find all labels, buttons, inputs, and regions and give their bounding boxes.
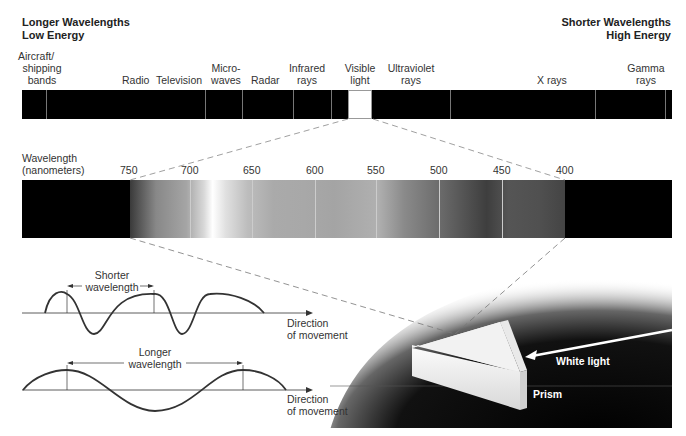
wave-label-text: Shorter [82, 269, 142, 281]
wave-label-text: Longer [124, 346, 186, 358]
short-wavelength-label: Shorter wavelength [82, 269, 142, 293]
short-wave [22, 284, 313, 334]
direction-text: of movement [287, 405, 348, 417]
prism-label: Prism [533, 388, 562, 400]
direction-text: of movement [287, 329, 348, 341]
white-light-label: White light [556, 355, 610, 367]
long-wave-direction-label: Direction of movement [287, 393, 348, 417]
wave-label-text: wavelength [82, 281, 142, 293]
long-wavelength-label: Longer wavelength [124, 346, 186, 370]
diagram-graphics [0, 0, 686, 436]
short-wave-direction-label: Direction of movement [287, 317, 348, 341]
direction-text: Direction [287, 317, 348, 329]
wave-label-text: wavelength [124, 358, 186, 370]
direction-text: Direction [287, 393, 348, 405]
